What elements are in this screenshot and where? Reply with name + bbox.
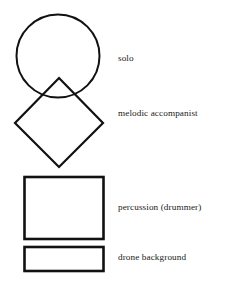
label-melodic-accompanist: melodic accompanist [118, 109, 198, 118]
music-role-shapes-diagram: solo melodic accompanist percussion (dru… [0, 0, 239, 288]
label-percussion: percussion (drummer) [118, 203, 201, 212]
rectangle-shape [25, 247, 104, 271]
circle-shape [17, 15, 100, 98]
shapes-layer [0, 0, 239, 288]
label-drone-background: drone background [118, 253, 186, 262]
diamond-shape [15, 78, 103, 167]
square-shape [25, 177, 104, 239]
label-solo: solo [118, 54, 134, 63]
